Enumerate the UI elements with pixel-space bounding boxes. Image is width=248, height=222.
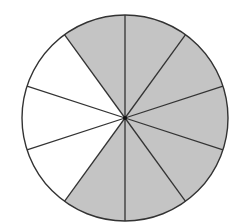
fraction-circle-diagram <box>0 0 248 222</box>
center-point <box>123 116 127 120</box>
